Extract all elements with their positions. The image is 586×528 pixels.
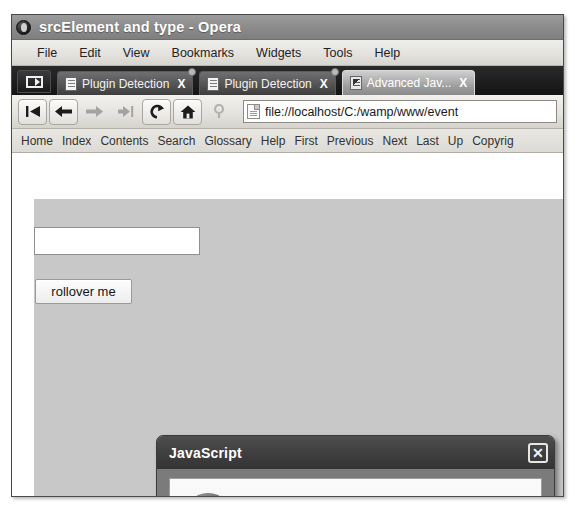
tab-advanced-javascript[interactable]: Advanced Jav... X: [342, 70, 476, 95]
tab-title: Plugin Detection: [82, 77, 169, 91]
doc-link-previous[interactable]: Previous: [327, 134, 374, 148]
dialog-message-panel: <localhost> button1 has recieved a mouse…: [169, 478, 542, 497]
dialog-origin-line: <localhost>: [266, 495, 451, 497]
home-icon: [180, 105, 196, 119]
navigation-toolbar: file://localhost/C:/wamp/www/event: [12, 95, 563, 129]
tab-indicator-dot: [188, 68, 196, 76]
document-icon: [350, 76, 362, 90]
menu-item-bookmarks[interactable]: Bookmarks: [161, 44, 246, 62]
doc-link-up[interactable]: Up: [448, 134, 463, 148]
dialog-title: JavaScript: [169, 445, 528, 461]
tab-close-icon[interactable]: X: [459, 77, 467, 89]
dialog-title-bar[interactable]: JavaScript ✕: [157, 436, 554, 469]
tab-list-icon[interactable]: [17, 70, 51, 93]
doc-link-next[interactable]: Next: [382, 134, 407, 148]
tab-indicator-dot: [331, 68, 339, 76]
fast-forward-icon: [118, 105, 134, 118]
url-bar[interactable]: file://localhost/C:/wamp/www/event: [243, 100, 557, 123]
doc-link-contents[interactable]: Contents: [100, 134, 148, 148]
menu-bar: File Edit View Bookmarks Widgets Tools H…: [12, 40, 563, 66]
doc-link-first[interactable]: First: [294, 134, 317, 148]
text-input[interactable]: [34, 227, 200, 255]
doc-link-index[interactable]: Index: [62, 134, 91, 148]
tab-close-icon[interactable]: X: [177, 78, 185, 90]
page-icon: [247, 104, 260, 119]
reload-icon: [149, 104, 165, 119]
dialog-message-text: <localhost> button1 has recieved a mouse…: [266, 493, 451, 497]
menu-item-widgets[interactable]: Widgets: [245, 44, 312, 62]
rewind-button[interactable]: [18, 99, 47, 125]
title-bar[interactable]: srcElement and type - Opera: [12, 15, 563, 40]
tab-plugin-detection-2[interactable]: Plugin Detection X: [199, 71, 335, 95]
menu-item-view[interactable]: View: [112, 44, 161, 62]
rollover-me-button[interactable]: rollover me: [35, 279, 132, 304]
tab-close-icon[interactable]: X: [320, 78, 328, 90]
tab-list-glyph: [26, 76, 43, 88]
page-content: rollover me JavaScript ✕ <localhost> but…: [12, 153, 563, 497]
tab-title: Plugin Detection: [224, 77, 311, 91]
tab-plugin-detection-1[interactable]: Plugin Detection X: [57, 71, 193, 95]
search-icon: [212, 104, 226, 119]
document-icon: [65, 77, 77, 91]
menu-item-help[interactable]: Help: [363, 44, 411, 62]
arrow-left-icon: [55, 105, 72, 118]
fast-forward-button[interactable]: [111, 99, 140, 125]
back-button[interactable]: [49, 99, 78, 125]
arrow-right-icon: [86, 105, 103, 118]
menu-item-tools[interactable]: Tools: [312, 44, 363, 62]
javascript-alert-dialog: JavaScript ✕ <localhost> button1 has rec…: [156, 435, 555, 497]
forward-button[interactable]: [80, 99, 109, 125]
menu-item-file[interactable]: File: [26, 44, 68, 62]
doc-link-help[interactable]: Help: [261, 134, 286, 148]
doc-link-glossary[interactable]: Glossary: [204, 134, 251, 148]
document-link-bar: Home Index Contents Search Glossary Help…: [12, 129, 563, 153]
close-icon[interactable]: ✕: [528, 443, 548, 463]
dialog-body: <localhost> button1 has recieved a mouse…: [157, 469, 554, 497]
opera-logo-icon: [16, 20, 31, 35]
home-button[interactable]: [173, 99, 202, 125]
info-icon: [184, 493, 232, 497]
doc-link-last[interactable]: Last: [416, 134, 439, 148]
search-button[interactable]: [204, 99, 233, 125]
document-icon: [207, 77, 219, 91]
tab-title: Advanced Jav...: [367, 76, 452, 90]
window-title: srcElement and type - Opera: [39, 19, 241, 35]
rewind-icon: [25, 105, 41, 118]
menu-item-edit[interactable]: Edit: [68, 44, 112, 62]
tab-bar: Plugin Detection X Plugin Detection X Ad…: [12, 66, 563, 95]
doc-link-search[interactable]: Search: [157, 134, 195, 148]
url-text: file://localhost/C:/wamp/www/event: [265, 105, 458, 119]
browser-window: srcElement and type - Opera File Edit Vi…: [11, 14, 564, 497]
reload-button[interactable]: [142, 99, 171, 125]
doc-link-copyright[interactable]: Copyrig: [472, 134, 513, 148]
doc-link-home[interactable]: Home: [21, 134, 53, 148]
